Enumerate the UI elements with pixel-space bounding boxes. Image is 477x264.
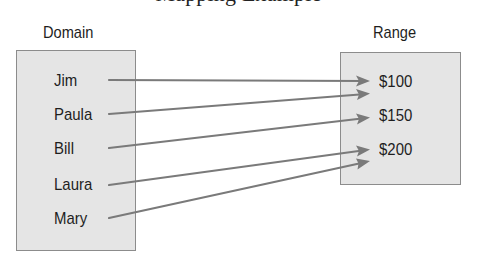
range-item-150: $150 (379, 107, 412, 124)
range-label: Range (373, 24, 416, 41)
arrow-jim-to-100 (109, 80, 366, 81)
domain-label: Domain (43, 24, 93, 41)
arrow-bill-to-150 (109, 118, 366, 148)
arrow-laura-to-200 (109, 150, 366, 185)
domain-item-mary: Mary (54, 210, 87, 227)
domain-item-jim: Jim (54, 72, 77, 89)
arrow-paula-to-100 (109, 94, 366, 114)
arrow-mary-to-200 (109, 162, 366, 218)
diagram-caption: Mapping Example (0, 0, 477, 5)
domain-item-bill: Bill (54, 140, 74, 157)
domain-item-paula: Paula (54, 106, 92, 123)
caption-fragment: Mapping Example (0, 0, 477, 7)
range-item-200: $200 (379, 141, 412, 158)
domain-item-laura: Laura (54, 176, 92, 193)
range-item-100: $100 (379, 73, 412, 90)
